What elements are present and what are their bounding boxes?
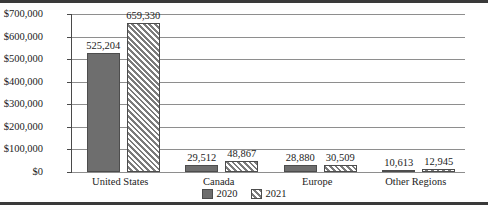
bar-2020-united-states — [87, 53, 120, 172]
y-axis-line — [71, 14, 72, 172]
legend-swatch-icon — [202, 189, 213, 199]
y-axis-tick-label: $0 — [0, 167, 43, 177]
x-axis-category-label: Europe — [260, 176, 375, 187]
bar-2020-europe — [284, 165, 317, 172]
legend-entry-2021[interactable]: 2021 — [251, 188, 287, 199]
bar-value-label: 48,867 — [216, 148, 267, 159]
y-axis-tick — [67, 172, 72, 173]
y-axis-tick-label: $400,000 — [0, 77, 43, 87]
chart-figure: $0$100,000$200,000$300,000$400,000$500,0… — [0, 0, 488, 216]
bar-value-label: 525,204 — [78, 40, 129, 51]
y-axis-tick-label: $300,000 — [0, 99, 43, 109]
y-axis-tick — [67, 14, 72, 15]
x-axis-category-label: United States — [63, 176, 178, 187]
chart-legend: 20202021 — [0, 188, 488, 199]
y-axis-tick-label: $200,000 — [0, 122, 43, 132]
y-axis-tick-label: $100,000 — [0, 144, 43, 154]
y-axis-tick — [67, 59, 72, 60]
y-axis-tick-label: $600,000 — [0, 32, 43, 42]
legend-label: 2021 — [266, 188, 287, 199]
bar-value-label: 30,509 — [315, 152, 366, 163]
x-axis-category-label: Other Regions — [359, 176, 474, 187]
bar-2021-other-regions — [422, 169, 455, 172]
x-axis-category-label: Canada — [162, 176, 277, 187]
y-axis-tick — [67, 104, 72, 105]
bottom-rule — [0, 202, 488, 205]
bar-value-label: 659,330 — [118, 10, 169, 21]
y-axis-tick-label: $700,000 — [0, 9, 43, 19]
y-axis-tick — [67, 82, 72, 83]
bar-2021-europe — [324, 165, 357, 172]
y-axis-tick — [67, 127, 72, 128]
y-axis-tick-label: $500,000 — [0, 54, 43, 64]
bar-2020-other-regions — [382, 170, 415, 172]
legend-entry-2020[interactable]: 2020 — [202, 188, 238, 199]
legend-label: 2020 — [217, 188, 238, 199]
bar-value-label: 12,945 — [413, 156, 464, 167]
top-rule — [0, 0, 488, 3]
legend-swatch-icon — [251, 189, 262, 199]
plot-area: $0$100,000$200,000$300,000$400,000$500,0… — [71, 14, 465, 172]
bar-2021-united-states — [127, 23, 160, 172]
bar-2020-canada — [185, 165, 218, 172]
y-axis-tick — [67, 37, 72, 38]
gridline — [71, 172, 465, 173]
bar-2021-canada — [225, 161, 258, 172]
y-axis-tick — [67, 149, 72, 150]
